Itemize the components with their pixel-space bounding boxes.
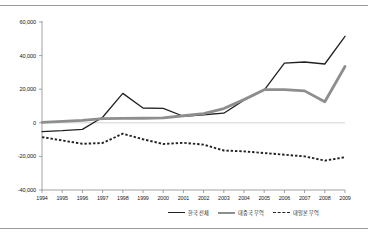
legend-label: 대중국 무역: [238, 209, 264, 216]
chart-page: 60,00040,00020,0000-20,000-40,000 199419…: [0, 0, 368, 238]
x-tick-label: 2001: [172, 195, 194, 201]
y-tick-label: 40,000: [2, 53, 36, 59]
legend-item: 대중국 무역: [218, 209, 264, 216]
x-tick-label: 2002: [193, 195, 215, 201]
x-tick-label: 1995: [51, 195, 73, 201]
x-tick-label: 2003: [213, 195, 235, 201]
legend-label: 대일본 무역: [293, 209, 319, 216]
x-tick-label: 1994: [31, 195, 53, 201]
chart-legend: 한국 전체대중국 무역대일본 무역: [168, 209, 319, 216]
bottom-divider-rule: [0, 228, 368, 229]
y-tick-label: 20,000: [2, 86, 36, 92]
x-tick-label: 1997: [92, 195, 114, 201]
legend-item: 한국 전체: [168, 209, 209, 216]
x-tick-label: 2008: [314, 195, 336, 201]
legend-item: 대일본 무역: [273, 209, 319, 216]
x-tick-label: 1999: [132, 195, 154, 201]
y-tick-label: 0: [2, 120, 36, 126]
x-tick-label: 2009: [334, 195, 356, 201]
series-line: [42, 36, 345, 131]
y-tick-label: 60,000: [2, 19, 36, 25]
x-tick-label: 2005: [253, 195, 275, 201]
legend-label: 한국 전체: [188, 209, 209, 216]
x-tick-label: 2000: [152, 195, 174, 201]
x-tick-label: 2007: [294, 195, 316, 201]
x-tick-label: 1996: [71, 195, 93, 201]
legend-swatch-icon: [168, 212, 185, 213]
legend-swatch-icon: [273, 212, 290, 213]
x-tick-label: 2004: [233, 195, 255, 201]
series-line: [42, 134, 345, 161]
y-tick-label: -40,000: [2, 187, 36, 193]
x-tick-label: 1998: [112, 195, 134, 201]
y-tick-label: -20,000: [2, 153, 36, 159]
line-chart-figure: 60,00040,00020,0000-20,000-40,000 199419…: [0, 6, 368, 228]
x-tick-label: 2006: [273, 195, 295, 201]
legend-swatch-icon: [218, 212, 235, 214]
series-line: [42, 67, 345, 123]
